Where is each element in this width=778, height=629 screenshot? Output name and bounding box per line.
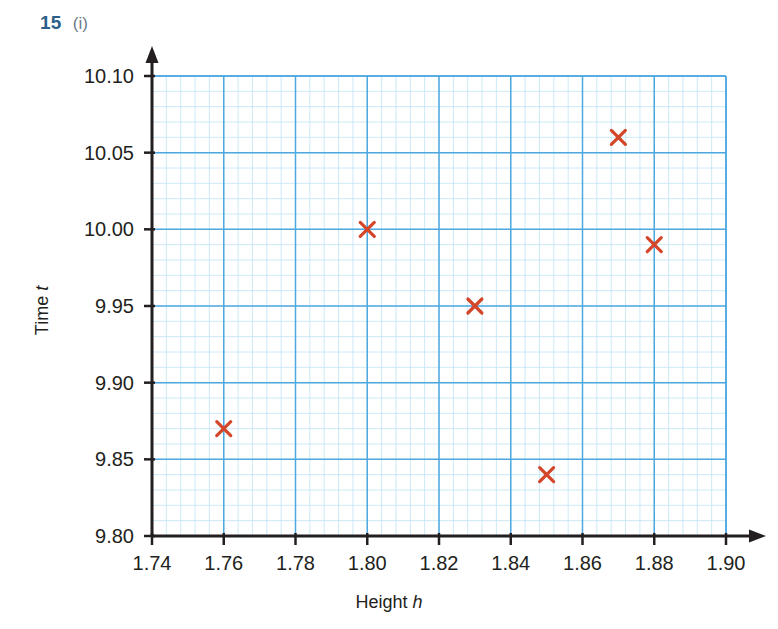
x-axis-tick-label: 1.84 — [491, 552, 530, 575]
y-axis-title-symbol: t — [32, 286, 52, 291]
axis-lines — [146, 46, 767, 543]
x-axis-tick-label: 1.78 — [276, 552, 315, 575]
x-axis-tick-label: 1.82 — [420, 552, 459, 575]
x-axis-tick-label: 1.88 — [635, 552, 674, 575]
x-axis-title-symbol: h — [413, 592, 423, 612]
x-axis-tick-label: 1.80 — [348, 552, 387, 575]
x-axis-tick-label: 1.86 — [563, 552, 602, 575]
y-axis-tick-label: 10.00 — [0, 218, 134, 241]
x-axis-title-text: Height — [355, 592, 407, 612]
y-axis-tick-label: 9.80 — [0, 525, 134, 548]
y-axis-tick-label: 9.90 — [0, 371, 134, 394]
y-axis-tick-label: 10.10 — [0, 65, 134, 88]
x-axis-tick-label: 1.90 — [707, 552, 746, 575]
y-axis-tick-label: 9.95 — [0, 295, 134, 318]
x-axis-tick-label: 1.74 — [133, 552, 172, 575]
y-axis-tick-label: 9.85 — [0, 448, 134, 471]
y-axis-title-text: Time — [32, 296, 52, 335]
y-axis-tick-label: 10.05 — [0, 141, 134, 164]
y-axis-title: Time t — [32, 251, 53, 371]
x-axis-tick-label: 1.76 — [204, 552, 243, 575]
scatter-plot-figure: 9.809.859.909.9510.0010.0510.10 1.741.76… — [0, 0, 778, 629]
x-axis-title: Height h — [0, 592, 778, 613]
